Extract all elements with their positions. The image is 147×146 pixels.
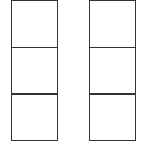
right-cell-1 xyxy=(89,0,136,48)
left-cell-3 xyxy=(11,93,58,141)
left-cell-1 xyxy=(11,0,58,48)
right-column xyxy=(89,0,136,141)
left-column xyxy=(11,0,58,141)
right-cell-3 xyxy=(89,93,136,141)
left-cell-2 xyxy=(11,47,58,95)
right-cell-2 xyxy=(89,47,136,95)
